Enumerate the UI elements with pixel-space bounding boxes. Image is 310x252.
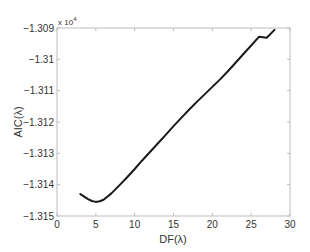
x-axis-label: DF(λ) xyxy=(159,233,187,245)
x-tick-label: 10 xyxy=(129,219,141,230)
x-tick-label: 5 xyxy=(93,219,99,230)
y-tick-label: −1.313 xyxy=(23,148,54,159)
y-multiplier-label: x 104 xyxy=(58,16,77,27)
y-tick-label: −1.311 xyxy=(24,85,55,96)
y-tick-label: −1.309 xyxy=(23,23,54,34)
x-tick-label: 30 xyxy=(284,219,296,230)
y-tick-label: −1.314 xyxy=(23,179,54,190)
y-tick-labels: −1.315−1.314−1.313−1.312−1.311−1.31−1.30… xyxy=(23,23,54,222)
x-tick-label: 20 xyxy=(207,219,219,230)
aic-chart: 051015202530 −1.315−1.314−1.313−1.312−1.… xyxy=(0,0,310,252)
y-tick-label: −1.312 xyxy=(23,117,54,128)
plot-background xyxy=(57,28,290,216)
x-tick-label: 15 xyxy=(168,219,180,230)
y-tick-label: −1.315 xyxy=(23,211,54,222)
y-axis-label: AIC(λ) xyxy=(12,106,24,137)
x-tick-labels: 051015202530 xyxy=(54,219,296,230)
y-tick-label: −1.31 xyxy=(29,54,55,65)
x-tick-label: 0 xyxy=(54,219,60,230)
x-tick-label: 25 xyxy=(246,219,258,230)
